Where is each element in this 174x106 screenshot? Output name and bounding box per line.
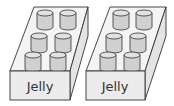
jelly-jar bbox=[60, 10, 76, 30]
jelly-jar bbox=[100, 52, 116, 72]
jelly-jar bbox=[50, 52, 66, 72]
jelly-jar bbox=[37, 10, 53, 30]
box-label: Jelly bbox=[26, 79, 54, 94]
jelly-jar bbox=[106, 33, 122, 53]
jelly-jar bbox=[31, 33, 47, 53]
jelly-jar bbox=[113, 10, 129, 30]
box-label: Jelly bbox=[101, 79, 129, 94]
jelly-jar bbox=[25, 52, 41, 72]
jelly-jar bbox=[136, 10, 152, 30]
jelly-jar bbox=[130, 33, 146, 53]
jelly-box-left: Jelly bbox=[10, 7, 88, 100]
jelly-jar bbox=[124, 52, 140, 72]
jelly-jar bbox=[55, 33, 71, 53]
jelly-boxes-diagram: Jelly Jelly bbox=[0, 0, 174, 106]
jelly-box-right: Jelly bbox=[86, 7, 166, 100]
